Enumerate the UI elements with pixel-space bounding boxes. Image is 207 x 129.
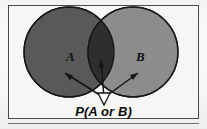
venn-diagram-figure: A B P(A or B) [0,0,207,129]
set-a-label: A [66,50,75,63]
set-b-label: B [136,50,145,63]
venn-diagram-graphic [8,5,199,119]
figure-baseline-rule [8,123,199,124]
figure-caption: P(A or B) [0,104,207,119]
